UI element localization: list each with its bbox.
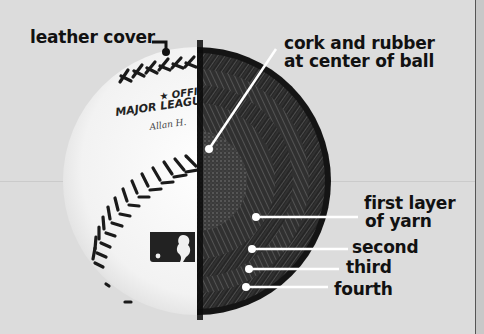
label-third-layer: third — [346, 258, 392, 276]
label-first-layer: first layer of yarn — [364, 194, 455, 230]
label-second-layer: second — [352, 238, 418, 256]
label-leather-cover: leather cover — [30, 28, 155, 46]
label-first-line2: of yarn — [364, 212, 455, 230]
page-edge-border — [475, 0, 484, 334]
mlb-logo-icon — [150, 232, 195, 262]
label-first-line1: first layer — [364, 194, 455, 212]
label-cork-rubber: cork and rubber at center of ball — [284, 34, 435, 70]
label-cork-line2: at center of ball — [284, 52, 435, 70]
label-cork-line1: cork and rubber — [284, 34, 435, 52]
label-fourth-layer: fourth — [334, 280, 393, 298]
